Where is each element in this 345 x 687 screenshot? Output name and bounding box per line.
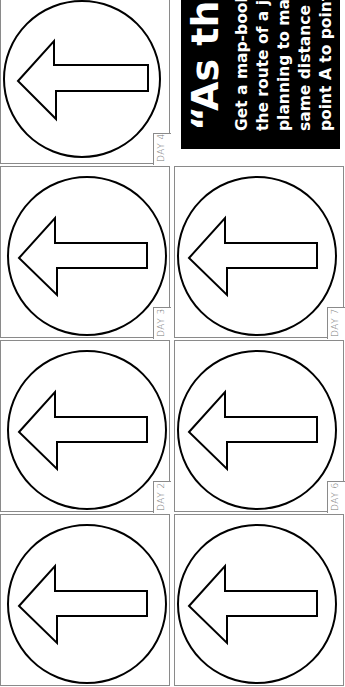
day-card-6: DAY 6 bbox=[174, 340, 344, 512]
day-label: DAY 4 bbox=[156, 133, 166, 162]
day-label: DAY 6 bbox=[330, 482, 340, 511]
day-card-3: DAY 3 bbox=[0, 166, 170, 338]
callout-title: “As the c bbox=[183, 0, 227, 131]
day-label: DAY 2 bbox=[156, 482, 166, 511]
day-card-4: DAY 4 bbox=[0, 0, 170, 164]
left-arrow-in-circle-icon bbox=[1, 0, 171, 165]
callout-line-4: same distance “ bbox=[296, 0, 314, 131]
left-arrow-in-circle-icon bbox=[175, 167, 345, 339]
callout-line-1: Get a map-book bbox=[233, 0, 251, 131]
callout-content: “As the c Get a map-book the route of a … bbox=[181, 0, 340, 149]
day-label: DAY 3 bbox=[156, 308, 166, 337]
day-label: DAY 7 bbox=[330, 308, 340, 337]
day-card-2: DAY 2 bbox=[0, 340, 170, 512]
callout-line-5: point A to point I bbox=[317, 0, 335, 131]
day-card-1 bbox=[0, 514, 170, 686]
callout-line-2: the route of a jou bbox=[254, 0, 272, 131]
left-arrow-in-circle-icon bbox=[1, 167, 171, 339]
day-card-7: DAY 7 bbox=[174, 166, 344, 338]
callout-box: “As the c Get a map-book the route of a … bbox=[181, 0, 340, 149]
callout-line-3: planning to mak bbox=[275, 0, 293, 131]
left-arrow-in-circle-icon bbox=[1, 515, 171, 687]
day-card-5 bbox=[174, 514, 344, 686]
left-arrow-in-circle-icon bbox=[175, 515, 345, 687]
left-arrow-in-circle-icon bbox=[175, 341, 345, 513]
left-arrow-in-circle-icon bbox=[1, 341, 171, 513]
